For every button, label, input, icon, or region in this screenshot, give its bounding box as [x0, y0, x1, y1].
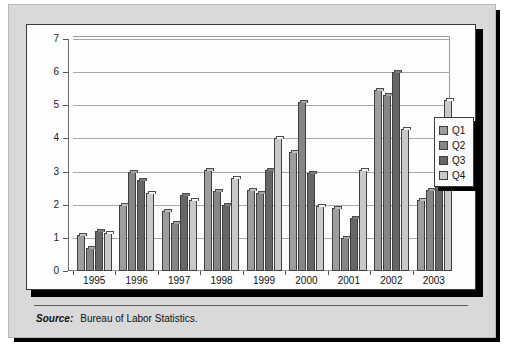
bar-top-cap: [446, 98, 454, 101]
bar-group: [200, 39, 242, 271]
bar-top-cap: [206, 168, 214, 171]
bar[interactable]: [162, 211, 170, 271]
x-tick-label: 2001: [327, 275, 371, 286]
page-root: 01234567 1995199619971998199920002001200…: [0, 0, 506, 347]
bar[interactable]: [392, 72, 400, 271]
y-tick-mark: [63, 205, 68, 206]
source-note: Source:Bureau of Labor Statistics.: [36, 313, 466, 324]
bar[interactable]: [231, 178, 239, 271]
bar[interactable]: [204, 170, 212, 271]
bar[interactable]: [426, 190, 434, 271]
bar[interactable]: [222, 205, 230, 271]
legend-item[interactable]: Q3: [439, 153, 473, 168]
bar-top-cap: [309, 171, 317, 174]
bar[interactable]: [316, 206, 324, 271]
legend-swatch-icon: [439, 171, 448, 180]
y-tick-label: 2: [43, 200, 59, 210]
bar-top-cap: [300, 100, 308, 103]
bar-top-cap: [191, 198, 199, 201]
bar-top-cap: [376, 88, 384, 91]
bar[interactable]: [374, 90, 382, 271]
bar-top-cap: [106, 231, 114, 234]
x-tick-label: 2002: [369, 275, 413, 286]
bar[interactable]: [401, 129, 409, 272]
bar-top-cap: [97, 229, 105, 232]
bar-top-cap: [164, 209, 172, 212]
bar[interactable]: [77, 235, 85, 271]
bar[interactable]: [274, 138, 282, 271]
legend-label: Q1: [452, 126, 465, 136]
bar-top-cap: [361, 168, 369, 171]
legend-swatch-icon: [439, 126, 448, 135]
bar-group: [285, 39, 327, 271]
y-tick-mark: [63, 138, 68, 139]
x-tick-label: 1998: [200, 275, 244, 286]
y-tick-label: 4: [43, 133, 59, 143]
bar[interactable]: [146, 193, 154, 271]
bar-group: [73, 39, 115, 271]
bar[interactable]: [86, 248, 94, 271]
bar[interactable]: [180, 195, 188, 271]
bar[interactable]: [298, 102, 306, 271]
bar[interactable]: [265, 170, 273, 271]
bar[interactable]: [256, 193, 264, 271]
bar[interactable]: [189, 200, 197, 271]
chart-legend: Q1Q2Q3Q4: [434, 117, 474, 187]
y-tick-mark: [63, 39, 68, 40]
bar[interactable]: [350, 218, 358, 271]
bar[interactable]: [247, 190, 255, 271]
source-text: Bureau of Labor Statistics.: [80, 313, 197, 324]
bar[interactable]: [95, 231, 103, 271]
y-tick-mark: [63, 271, 68, 272]
y-tick-label: 5: [43, 100, 59, 110]
y-tick-mark: [63, 238, 68, 239]
bar[interactable]: [104, 233, 112, 271]
legend-label: Q3: [452, 156, 465, 166]
legend-label: Q2: [452, 141, 465, 151]
footer-divider: [34, 305, 468, 306]
y-tick-label: 0: [43, 266, 59, 276]
y-tick-label: 7: [43, 34, 59, 44]
bar-group: [328, 39, 370, 271]
y-tick-label: 6: [43, 67, 59, 77]
bar[interactable]: [341, 238, 349, 271]
bar-top-cap: [394, 70, 402, 73]
bar-top-cap: [334, 206, 342, 209]
bar-group: [115, 39, 157, 271]
x-tick-label: 1996: [115, 275, 159, 286]
x-tick-label: 1995: [72, 275, 116, 286]
legend-label: Q4: [452, 171, 465, 181]
y-tick-mark: [63, 105, 68, 106]
bar[interactable]: [137, 180, 145, 271]
source-label: Source:: [36, 313, 73, 324]
bar-top-cap: [79, 233, 87, 236]
bar[interactable]: [171, 223, 179, 271]
chart-card: 01234567 1995199619971998199920002001200…: [26, 24, 476, 290]
x-tick-label: 1997: [157, 275, 201, 286]
bar-group: [158, 39, 200, 271]
bar[interactable]: [383, 95, 391, 271]
legend-item[interactable]: Q1: [439, 123, 473, 138]
legend-swatch-icon: [439, 156, 448, 165]
bar[interactable]: [128, 172, 136, 271]
plot-container: 01234567 1995199619971998199920002001200…: [27, 25, 477, 291]
outer-panel: 01234567 1995199619971998199920002001200…: [8, 4, 496, 338]
bar-top-cap: [182, 193, 190, 196]
bar[interactable]: [289, 152, 297, 271]
bar[interactable]: [213, 191, 221, 271]
bar[interactable]: [417, 200, 425, 271]
x-tick-label: 2003: [412, 275, 456, 286]
bar-group: [370, 39, 412, 271]
legend-item[interactable]: Q2: [439, 138, 473, 153]
bar[interactable]: [359, 170, 367, 271]
bar-group: [243, 39, 285, 271]
legend-item[interactable]: Q4: [439, 168, 473, 183]
bar-top-cap: [148, 191, 156, 194]
bar[interactable]: [332, 208, 340, 271]
bar[interactable]: [119, 205, 127, 271]
bar-top-cap: [215, 189, 223, 192]
bar[interactable]: [307, 173, 315, 271]
x-tick-label: 1999: [242, 275, 286, 286]
legend-swatch-icon: [439, 141, 448, 150]
bar-top-cap: [276, 136, 284, 139]
